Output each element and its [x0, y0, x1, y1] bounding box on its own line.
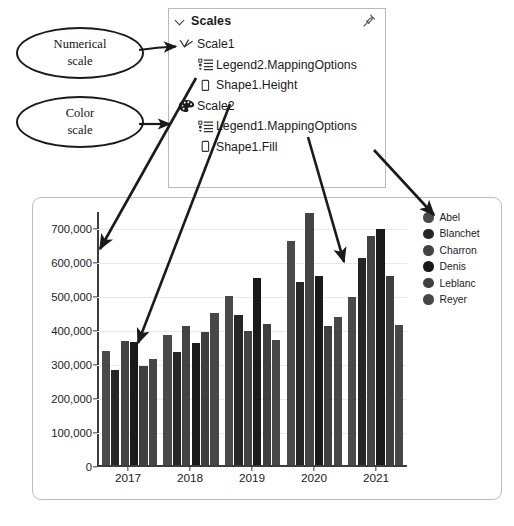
bar[interactable] [324, 326, 332, 465]
bar-group [222, 212, 284, 465]
x-axis-tick-mark [251, 467, 252, 471]
bar[interactable] [334, 317, 342, 466]
legend-item[interactable]: Reyer [423, 294, 480, 305]
legend-item[interactable]: Charron [423, 245, 480, 256]
bar[interactable] [182, 326, 190, 465]
mapping-options-icon [197, 119, 214, 134]
callout-line-2: scale [68, 53, 93, 70]
bar[interactable] [234, 315, 242, 465]
legend-swatch-icon [423, 245, 434, 256]
bar[interactable] [395, 325, 403, 466]
bar[interactable] [163, 335, 171, 465]
bar[interactable] [210, 313, 218, 465]
tree-item-label: Legend2.MappingOptions [216, 59, 357, 71]
legend-label: Leblanc [440, 278, 476, 289]
bar[interactable] [296, 282, 304, 466]
y-axis-tick-mark [93, 296, 97, 297]
tree-item-legend1-mappingoptions[interactable]: Legend1.MappingOptions [169, 116, 385, 137]
legend-label: Reyer [440, 294, 467, 305]
tree-item-scale2[interactable]: Scale2 [169, 96, 385, 117]
y-axis-tick-mark [93, 398, 97, 399]
tree-item-shape1-height[interactable]: Shape1.Height [169, 75, 385, 96]
tree-item-label: Shape1.Fill [216, 141, 278, 153]
y-axis-tick-label: 400,000 [51, 325, 97, 337]
bar[interactable] [149, 359, 157, 466]
tree-item-label: Scale2 [197, 100, 235, 112]
callout-line-1: Numerical [54, 36, 107, 53]
y-axis-tick-label: 600,000 [51, 257, 97, 269]
numerical-scale-icon [178, 37, 195, 52]
tree-item-legend2-mappingoptions[interactable]: Legend2.MappingOptions [169, 55, 385, 76]
color-palette-icon [178, 98, 195, 113]
bar[interactable] [111, 370, 119, 465]
scales-panel-header[interactable]: Scales [169, 9, 385, 33]
y-axis-tick-label: 100,000 [51, 427, 97, 439]
bar-group [283, 212, 345, 465]
legend-swatch-icon [423, 278, 434, 289]
bar[interactable] [192, 343, 200, 465]
y-axis-tick-mark [93, 432, 97, 433]
x-axis-tick-mark [127, 467, 128, 471]
legend-swatch-icon [423, 261, 434, 272]
screenshot-root: Numerical scale Color scale Scales [0, 0, 514, 526]
chart-card: 0100,000200,000300,000400,000500,000600,… [32, 197, 502, 500]
bar[interactable] [130, 342, 138, 465]
bar-group [160, 212, 222, 465]
bar[interactable] [173, 352, 181, 466]
bar[interactable] [272, 340, 280, 465]
scales-tree: Scale1 Legend2.MappingOptions [169, 33, 385, 157]
property-icon [197, 139, 214, 154]
y-axis-tick-label: 200,000 [51, 393, 97, 405]
property-icon [197, 78, 214, 93]
bar-group [99, 212, 161, 465]
y-axis-tick-mark [93, 466, 97, 467]
scales-panel: Scales Scale1 [168, 8, 386, 188]
callout-line-2: scale [68, 122, 93, 139]
bar[interactable] [253, 278, 261, 466]
callout-color-scale: Color scale [16, 96, 144, 148]
bar[interactable] [121, 341, 129, 465]
bar[interactable] [244, 331, 252, 465]
legend-item[interactable]: Denis [423, 261, 480, 272]
callout-line-1: Color [66, 105, 94, 122]
mapping-options-icon [197, 57, 214, 72]
y-axis-tick-label: 700,000 [51, 223, 97, 235]
y-axis-tick-label: 300,000 [51, 359, 97, 371]
bar[interactable] [102, 351, 110, 465]
tree-item-label: Scale1 [197, 38, 235, 50]
tree-item-label: Legend1.MappingOptions [216, 120, 357, 132]
bar[interactable] [376, 229, 384, 465]
legend-item[interactable]: Blanchet [423, 228, 480, 239]
callout-numerical-scale: Numerical scale [16, 27, 144, 79]
tree-item-scale1[interactable]: Scale1 [169, 34, 385, 55]
bar[interactable] [305, 213, 313, 465]
tree-item-shape1-fill[interactable]: Shape1.Fill [169, 137, 385, 158]
bar[interactable] [139, 366, 147, 465]
chevron-down-icon[interactable] [175, 15, 187, 27]
bar[interactable] [225, 296, 233, 466]
bar[interactable] [367, 236, 375, 466]
legend-label: Denis [440, 261, 466, 272]
legend-swatch-icon [423, 294, 434, 305]
y-axis-tick-mark [93, 364, 97, 365]
panel-title: Scales [191, 14, 231, 28]
bar[interactable] [348, 297, 356, 466]
pin-icon[interactable] [361, 13, 377, 29]
y-axis-tick-label: 500,000 [51, 291, 97, 303]
bar[interactable] [201, 332, 209, 466]
x-axis-tick-mark [313, 467, 314, 471]
legend-item[interactable]: Leblanc [423, 278, 480, 289]
bar[interactable] [358, 258, 366, 466]
bar[interactable] [315, 276, 323, 465]
y-axis-tick-mark [93, 228, 97, 229]
x-axis-tick-mark [189, 467, 190, 471]
chart-legend: AbelBlanchetCharronDenisLeblancReyer [423, 212, 480, 305]
legend-swatch-icon [423, 229, 434, 240]
legend-swatch-icon [423, 212, 434, 223]
legend-label: Blanchet [440, 228, 480, 239]
bar[interactable] [386, 276, 394, 465]
bar[interactable] [287, 241, 295, 466]
legend-item[interactable]: Abel [423, 212, 480, 223]
bar[interactable] [263, 324, 271, 465]
tree-item-label: Shape1.Height [216, 79, 297, 91]
